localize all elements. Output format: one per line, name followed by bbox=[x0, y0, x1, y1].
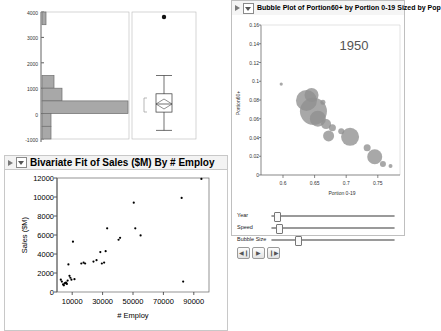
slider-label-bubble-size: Bubble Size bbox=[237, 235, 271, 243]
scatter-point bbox=[134, 227, 136, 229]
svg-text:0.75: 0.75 bbox=[373, 180, 383, 186]
slider-label-year: Year bbox=[237, 211, 271, 219]
scatter-point bbox=[103, 261, 105, 263]
histogram-panel: 4000 3000 2000 1000 0 -1000 bbox=[0, 0, 228, 152]
slider-row-speed[interactable]: Speed bbox=[237, 222, 399, 232]
bivariate-scatter-chart: 12000 10000 8000 6000 4000 2000 0 bbox=[5, 170, 227, 326]
histogram-boxplot-chart: 4000 3000 2000 1000 0 -1000 bbox=[0, 0, 228, 152]
speed-slider-thumb[interactable] bbox=[276, 224, 283, 234]
svg-text:70000: 70000 bbox=[153, 297, 174, 306]
scatter-point bbox=[60, 279, 62, 281]
scatter-point bbox=[67, 280, 69, 282]
svg-text:10000: 10000 bbox=[33, 193, 54, 202]
step-back-icon: ◀❙ bbox=[238, 248, 249, 258]
bubble-y-axis-label: Portion60+ bbox=[235, 91, 241, 115]
scatter-point bbox=[73, 278, 75, 280]
svg-text:4000: 4000 bbox=[37, 250, 54, 259]
play-button[interactable]: ▶ bbox=[252, 247, 265, 259]
step-forward-button[interactable]: ❙▶ bbox=[267, 247, 280, 259]
svg-text:0.12: 0.12 bbox=[249, 60, 259, 66]
year-slider-thumb[interactable] bbox=[274, 212, 281, 222]
bubble-scatter-chart: 0.16 0.14 0.12 0.1 0.08 0.06 0.04 0.02 0 bbox=[232, 15, 404, 203]
bubble-controls: Year Speed Bubble Size ◀❙ bbox=[232, 207, 404, 261]
bivariate-titlebar[interactable]: Bivariate Fit of Sales ($M) By # Employ bbox=[4, 155, 228, 169]
triangle-right-icon[interactable] bbox=[235, 5, 240, 11]
svg-text:8000: 8000 bbox=[37, 212, 54, 221]
svg-text:3000: 3000 bbox=[27, 35, 38, 41]
y-axis-label: Sales ($M) bbox=[20, 216, 29, 253]
svg-text:10000: 10000 bbox=[62, 297, 83, 306]
x-axis: 0.6 0.65 0.7 0.75 Portion 0-19 bbox=[261, 175, 400, 196]
svg-text:90000: 90000 bbox=[183, 297, 204, 306]
scatter-point bbox=[63, 284, 65, 286]
bubble-mark bbox=[389, 164, 393, 168]
bivariate-fit-panel: Bivariate Fit of Sales ($M) By # Employ … bbox=[4, 155, 228, 327]
chevron-down-icon[interactable] bbox=[16, 157, 27, 168]
triangle-right-icon[interactable] bbox=[8, 160, 13, 166]
scatter-point bbox=[182, 280, 184, 282]
scatter-point bbox=[101, 262, 103, 264]
scatter-point bbox=[84, 262, 86, 264]
play-icon: ▶ bbox=[253, 248, 264, 258]
bivariate-title: Bivariate Fit of Sales ($M) By # Employ bbox=[30, 157, 215, 169]
bubble-size-slider-thumb[interactable] bbox=[295, 236, 302, 246]
scatter-point bbox=[72, 241, 74, 243]
scatter-point bbox=[67, 263, 69, 265]
outlier-point bbox=[162, 15, 166, 19]
histogram-bars bbox=[42, 12, 128, 139]
svg-text:0: 0 bbox=[256, 172, 259, 178]
svg-text:50000: 50000 bbox=[123, 297, 144, 306]
bubble-marks bbox=[280, 82, 393, 167]
scatter-point bbox=[69, 277, 71, 279]
svg-text:0.16: 0.16 bbox=[249, 22, 259, 28]
scatter-point bbox=[70, 279, 72, 281]
bubble-size-slider-track[interactable] bbox=[271, 239, 395, 241]
x-axis: 10000 30000 50000 70000 90000 # Employ bbox=[62, 292, 204, 320]
svg-text:0.6: 0.6 bbox=[280, 180, 287, 186]
scatter-point bbox=[119, 237, 121, 239]
svg-text:2000: 2000 bbox=[27, 61, 38, 67]
bubble-titlebar[interactable]: Bubble Plot of Portion60+ by Portion 0-1… bbox=[232, 1, 404, 15]
scatter-point bbox=[99, 251, 101, 253]
scatter-point bbox=[106, 227, 108, 229]
year-slider-track[interactable] bbox=[271, 215, 395, 217]
scatter-points bbox=[60, 178, 203, 287]
svg-text:6000: 6000 bbox=[37, 231, 54, 240]
svg-text:2000: 2000 bbox=[37, 269, 54, 278]
slider-label-speed: Speed bbox=[237, 223, 271, 231]
svg-text:0.06: 0.06 bbox=[249, 116, 259, 122]
slider-row-bubble-size[interactable]: Bubble Size bbox=[237, 234, 399, 244]
svg-text:0.1: 0.1 bbox=[252, 78, 259, 84]
svg-text:0: 0 bbox=[35, 112, 38, 118]
svg-text:0.65: 0.65 bbox=[310, 180, 320, 186]
playback-buttons: ◀❙ ▶ ❙▶ bbox=[237, 247, 399, 259]
svg-text:0.14: 0.14 bbox=[249, 41, 259, 47]
slider-row-year[interactable]: Year bbox=[237, 210, 399, 220]
bubble-mark bbox=[323, 130, 334, 141]
bubble-mark bbox=[364, 144, 371, 151]
scatter-point bbox=[105, 250, 107, 252]
speed-slider-track[interactable] bbox=[271, 227, 395, 229]
scatter-point bbox=[133, 202, 135, 204]
bubble-x-axis-label: Portion 0-19 bbox=[328, 190, 355, 196]
svg-text:0.7: 0.7 bbox=[343, 180, 350, 186]
scatter-point bbox=[80, 262, 82, 264]
svg-text:0.02: 0.02 bbox=[249, 153, 259, 159]
bubble-mark bbox=[341, 128, 359, 146]
step-forward-icon: ❙▶ bbox=[268, 248, 279, 258]
bubble-mark bbox=[320, 100, 325, 105]
bubble-mark bbox=[367, 149, 382, 164]
bivariate-body: 12000 10000 8000 6000 4000 2000 0 bbox=[4, 169, 228, 331]
bubble-mark bbox=[280, 82, 283, 85]
svg-text:0: 0 bbox=[50, 288, 54, 297]
scatter-point bbox=[92, 261, 94, 263]
scatter-point bbox=[66, 283, 68, 285]
scatter-point bbox=[61, 280, 63, 282]
scatter-point bbox=[140, 234, 142, 236]
year-annotation: 1950 bbox=[340, 38, 369, 53]
bubble-plot-panel: Bubble Plot of Portion60+ by Portion 0-1… bbox=[231, 0, 405, 236]
svg-text:-1000: -1000 bbox=[25, 137, 38, 143]
chevron-down-icon[interactable] bbox=[243, 3, 254, 14]
bubble-title: Bubble Plot of Portion60+ by Portion 0-1… bbox=[257, 2, 441, 14]
step-back-button[interactable]: ◀❙ bbox=[237, 247, 250, 259]
